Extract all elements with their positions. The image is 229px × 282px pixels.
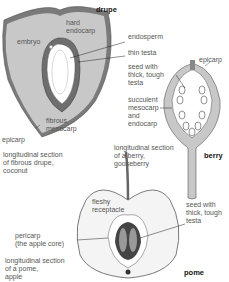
pome-caption: longitudinal section of a pome, apple	[5, 257, 65, 281]
label-succulent-mesocarp: succulent mesocarp and endocarp	[128, 96, 159, 128]
label-pericarp: pericarp (the apple core)	[15, 232, 64, 248]
label-hard-endocarp: hard endocarp	[66, 19, 95, 35]
label-epicarp-drupe: epicarp	[2, 136, 25, 144]
label-thin-testa: thin testa	[128, 49, 156, 57]
label-embryo: embryo	[17, 38, 40, 46]
berry-caption: longitudinal section of a berry, goosebe…	[114, 144, 174, 168]
berry-illustration	[160, 60, 220, 199]
label-epicarp-berry: epicarp	[199, 56, 222, 64]
drupe-caption: longitudinal section of fibrous drupe, c…	[3, 151, 63, 175]
label-endosperm: endosperm	[128, 33, 163, 41]
label-berry-seed: seed with thick, tough testa	[128, 63, 164, 87]
drupe-title: drupe	[96, 5, 117, 14]
label-fibrous-mesocarp: fibrous mesocarp	[46, 117, 77, 133]
pome-illustration	[77, 152, 185, 278]
pome-title: pome	[184, 268, 204, 277]
label-pome-seed: seed with thick, tough testa	[186, 201, 222, 225]
label-fleshy-receptacle: fleshy receptacle	[92, 198, 124, 214]
berry-title: berry	[204, 151, 223, 160]
